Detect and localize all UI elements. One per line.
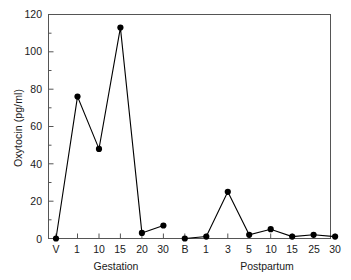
data-point xyxy=(182,235,188,241)
y-major-ticks xyxy=(49,15,54,239)
data-point xyxy=(203,234,209,240)
data-point xyxy=(96,146,102,152)
data-line-gestation xyxy=(56,28,163,239)
plot-area xyxy=(0,0,351,280)
data-point xyxy=(74,94,80,100)
data-point xyxy=(289,234,295,240)
data-markers-postpartum xyxy=(182,189,339,242)
axes-frame xyxy=(49,15,331,239)
data-point xyxy=(139,230,145,236)
data-point xyxy=(268,226,274,232)
data-point xyxy=(246,232,252,238)
data-point xyxy=(117,25,123,31)
data-point xyxy=(53,235,59,241)
chart-figure: Oxytocin (pg/ml) 120 100 80 60 40 20 0 V… xyxy=(0,0,351,280)
data-line-postpartum xyxy=(185,192,335,239)
data-point xyxy=(225,189,231,195)
data-point xyxy=(160,222,166,228)
data-point xyxy=(311,232,317,238)
data-point xyxy=(332,234,338,240)
data-markers-gestation xyxy=(53,25,167,242)
